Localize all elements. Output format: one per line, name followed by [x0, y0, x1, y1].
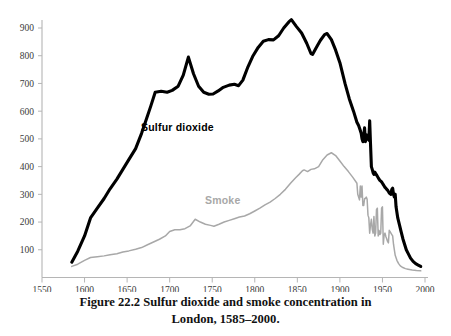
y-axis-tick-label: 600	[20, 107, 35, 117]
x-axis-tick-label: 1800	[245, 285, 264, 293]
caption-line-1: Figure 22.2 Sulfur dioxide and smoke con…	[0, 294, 451, 311]
x-axis-tick-label: 1950	[373, 285, 392, 293]
y-axis-tick-label: 800	[20, 51, 35, 61]
y-axis-tick-label: 500	[20, 134, 35, 144]
x-axis-ticks: 1550160016501700175018001850190019502000	[33, 278, 435, 293]
x-axis-tick-label: 2000	[416, 285, 435, 293]
x-axis-tick-label: 1900	[330, 285, 349, 293]
x-axis-tick-label: 1550	[33, 285, 52, 293]
y-axis-tick-label: 900	[20, 23, 35, 33]
y-axis-tick-label: 100	[20, 245, 35, 255]
smoke-series-label: Smoke	[205, 194, 240, 206]
x-axis-tick-label: 1700	[160, 285, 179, 293]
x-axis-tick-label: 1750	[203, 285, 222, 293]
figure-container: 100200300400500600700800900 155016001650…	[0, 0, 451, 336]
chart-svg: 100200300400500600700800900 155016001650…	[0, 0, 451, 292]
x-axis-tick-label: 1850	[288, 285, 307, 293]
smoke-line-series	[72, 153, 421, 271]
x-axis-tick-label: 1600	[75, 285, 94, 293]
y-axis-tick-label: 200	[20, 217, 35, 227]
y-axis-tick-label: 300	[20, 190, 35, 200]
y-axis-tick-label: 400	[20, 162, 35, 172]
x-axis-tick-label: 1650	[118, 285, 137, 293]
caption-line-2: London, 1585–2000.	[0, 311, 451, 328]
sulfur-dioxide-line-series	[72, 20, 421, 267]
chart-plot-area: 100200300400500600700800900 155016001650…	[0, 0, 451, 292]
figure-caption: Figure 22.2 Sulfur dioxide and smoke con…	[0, 294, 451, 328]
y-axis-ticks: 100200300400500600700800900	[20, 23, 42, 255]
y-axis-tick-label: 700	[20, 79, 35, 89]
sulfur-dioxide-series-label: Sulfur dioxide	[141, 121, 214, 133]
